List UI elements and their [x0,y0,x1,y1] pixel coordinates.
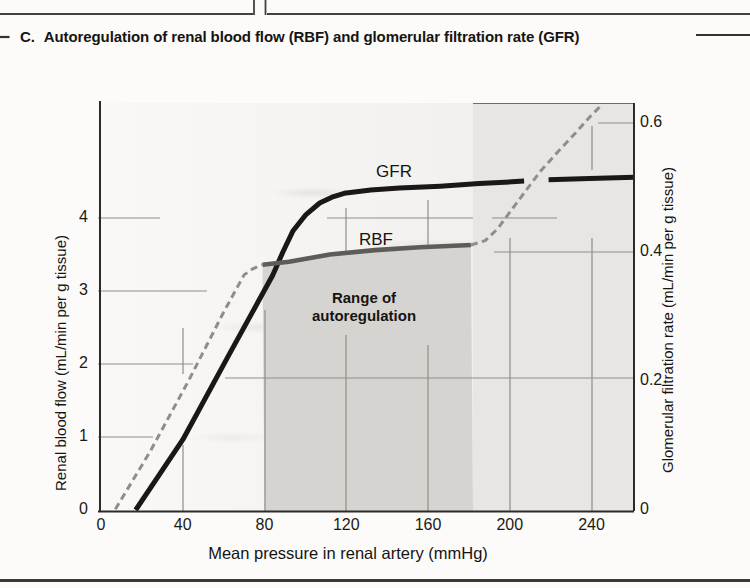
y-left-tick-label: 4 [54,208,88,226]
rbf-dashed-curve [115,265,262,510]
x-tick-label: 200 [488,516,532,534]
y-left-tick-label: 1 [54,427,88,445]
gfr-curve [549,177,635,180]
y-right-tick-label: 0 [640,500,649,518]
rbf-dashed-curve [471,105,602,245]
y-left-tick-label: 0 [54,500,88,518]
y-right-tick-label: 0.4 [640,242,662,260]
rbf-curve-label: RBF [359,230,393,250]
x-tick-label: 40 [161,516,205,534]
y-left-tick-label: 2 [54,354,88,372]
x-tick-label: 240 [570,516,614,534]
figure-title: C.Autoregulation of renal blood flow (RB… [20,28,579,45]
y-right-tick-label: 0.6 [640,113,662,131]
gfr-curve-label: GFR [376,162,412,182]
y-right-tick-label: 0.2 [640,371,662,389]
x-axis-label: Mean pressure in renal artery (mmHg) [208,544,488,563]
x-tick-label: 0 [79,516,123,534]
x-tick-label: 120 [324,516,368,534]
section-label: C. [20,28,35,45]
autoregulation-band-label: Range of autoregulation [279,289,449,325]
y-axis-right-label: Glomerular filtration rate (mL/min per g… [659,167,676,473]
figure-title-text: Autoregulation of renal blood flow (RBF)… [44,28,580,45]
x-tick-label: 160 [406,516,450,534]
y-left-tick-label: 3 [54,281,88,299]
x-tick-label: 80 [243,516,287,534]
